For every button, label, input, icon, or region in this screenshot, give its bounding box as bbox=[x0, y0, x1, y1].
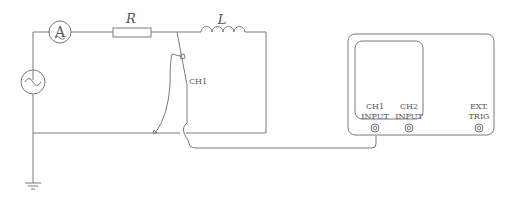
ch1-label: CH1 bbox=[366, 102, 384, 111]
ch2-input-label: INPUT bbox=[395, 112, 423, 121]
probe-cable bbox=[188, 136, 376, 148]
ground-icon bbox=[25, 183, 41, 189]
probe-tip bbox=[180, 54, 185, 59]
trig-label: TRIG bbox=[469, 112, 490, 121]
inductor-label: L bbox=[217, 12, 227, 27]
circuit-diagram: A R L CH1 CH1 INPUT bbox=[0, 0, 514, 200]
ext-label: EXT. bbox=[470, 102, 488, 111]
resistor: R bbox=[113, 11, 151, 37]
oscilloscope: CH1 INPUT CH2 INPUT EXT. TRIG bbox=[348, 34, 494, 135]
ch2-label: CH2 bbox=[400, 102, 418, 111]
probe-label: CH1 bbox=[189, 77, 207, 86]
ch1-input-label: INPUT bbox=[361, 112, 389, 121]
ext-trig-jack[interactable] bbox=[475, 124, 483, 132]
probe-ground-lead bbox=[156, 54, 180, 132]
ch2-input-jack[interactable] bbox=[405, 124, 413, 132]
probe-lead-signal bbox=[177, 32, 188, 140]
probe-ch1: CH1 bbox=[153, 32, 207, 140]
inductor: L bbox=[201, 12, 245, 32]
wire-right bbox=[245, 32, 266, 133]
resistor-label: R bbox=[125, 11, 136, 26]
ammeter: A bbox=[49, 21, 71, 43]
ch1-input-jack[interactable] bbox=[371, 124, 379, 132]
